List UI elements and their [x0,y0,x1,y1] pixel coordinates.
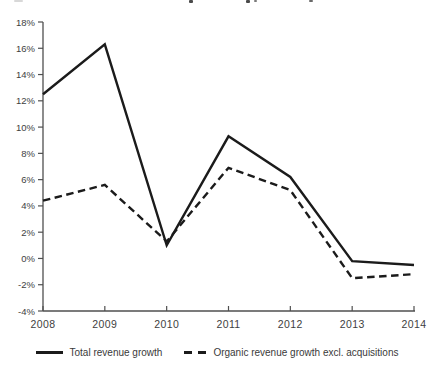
y-tick-label: 14% [16,69,36,80]
x-tick-label: 2012 [278,318,303,330]
x-tick-label: 2013 [340,318,365,330]
y-tick-label: -2% [18,279,35,290]
chart-legend: Total revenue growth Organic revenue gro… [0,341,434,363]
y-tick-label: 16% [16,43,36,54]
solid-line-sample-icon [36,351,63,354]
y-tick-label: 4% [21,200,35,211]
y-tick-label: 8% [21,148,35,159]
chart-page: 18%16%14%12%10%8%6%4%2%0%-2%-4%200820092… [0,0,434,371]
legend-item-total-revenue-growth: Total revenue growth [36,347,163,358]
y-tick-label: 2% [21,227,35,238]
y-tick-label: 18% [16,17,36,28]
x-tick-label: 2008 [31,318,56,330]
series-line-solid [43,44,414,265]
x-tick-label: 2011 [216,318,240,330]
legend-label: Organic revenue growth excl. acquisition… [213,347,398,358]
x-tick-label: 2009 [92,318,117,330]
dashed-line-sample-icon [184,351,206,354]
legend-item-organic-revenue-growth: Organic revenue growth excl. acquisition… [184,347,398,358]
y-tick-label: 0% [21,253,35,264]
legend-label: Total revenue growth [70,347,163,358]
x-tick-label: 2014 [402,318,427,330]
line-chart-plot: 18%16%14%12%10%8%6%4%2%0%-2%-4%200820092… [0,0,434,341]
x-tick-label: 2010 [154,318,179,330]
y-tick-label: 10% [16,122,36,133]
y-tick-label: 12% [16,95,36,106]
y-tick-label: 6% [21,174,35,185]
y-tick-label: -4% [18,306,35,317]
